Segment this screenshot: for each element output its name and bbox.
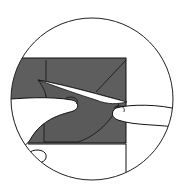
peeling-paper-illustration <box>0 0 180 189</box>
